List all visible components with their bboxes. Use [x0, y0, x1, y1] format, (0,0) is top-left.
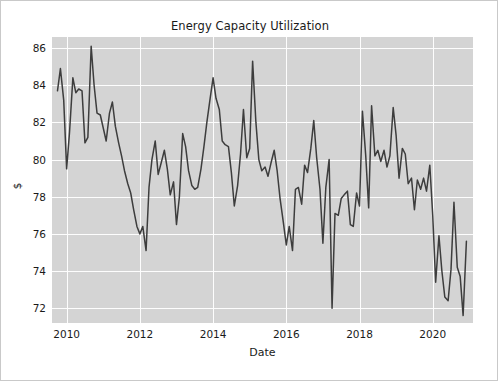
chart-figure: Energy Capacity Utilization 727476788082…: [0, 0, 498, 381]
y-tick-label: 74: [4, 265, 46, 277]
y-tick-label: 80: [4, 154, 46, 166]
chart-title: Energy Capacity Utilization: [1, 19, 498, 33]
x-tick-label: 2016: [273, 328, 300, 340]
y-tick-label: 78: [4, 191, 46, 203]
y-axis-ticks: 7274767880828486: [1, 37, 46, 323]
y-tick-label: 82: [4, 116, 46, 128]
line-series: [52, 37, 473, 323]
x-tick-label: 2012: [126, 328, 153, 340]
x-tick-label: 2020: [419, 328, 446, 340]
x-tick-label: 2018: [346, 328, 373, 340]
plot-area: [52, 37, 473, 323]
y-tick-label: 72: [4, 302, 46, 314]
y-tick-label: 84: [4, 79, 46, 91]
y-tick-label: 86: [4, 42, 46, 54]
y-tick-label: 76: [4, 228, 46, 240]
y-axis-label: $: [11, 183, 23, 190]
x-axis-label: Date: [52, 346, 473, 359]
x-tick-label: 2010: [53, 328, 80, 340]
x-axis-ticks: 201020122014201620182020: [52, 328, 473, 346]
series-polyline: [57, 46, 466, 315]
x-tick-label: 2014: [200, 328, 227, 340]
